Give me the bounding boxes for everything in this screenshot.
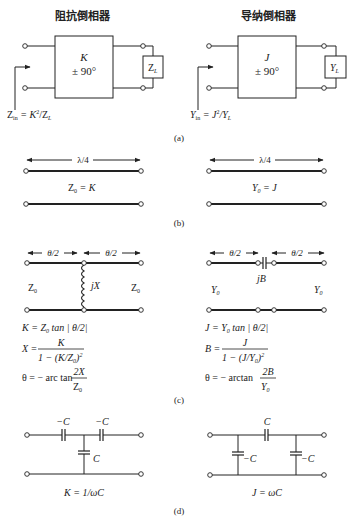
svg-text:θ = − arctan: θ = − arctan	[205, 372, 253, 383]
svg-text:θ = − arc tan: θ = − arc tan	[22, 372, 73, 383]
relation-j: J = ωC	[252, 487, 282, 498]
capacitor-label: C	[93, 453, 100, 464]
panel-c-label: (c)	[174, 395, 184, 405]
svg-text:1 − (K/Z0)2: 1 − (K/Z0)2	[38, 352, 82, 364]
line-length: λ/4	[259, 155, 271, 165]
capacitor-label: −C	[301, 453, 315, 464]
panel-a-label: (a)	[174, 133, 184, 143]
half-length: θ/2	[105, 248, 117, 258]
half-length: θ/2	[229, 248, 241, 258]
line-impedance: Z0 = K	[68, 182, 97, 194]
port-admittance: Y0	[314, 284, 323, 296]
capacitor-pi-j-inverter: C −C −C J = ωC	[208, 416, 327, 498]
capacitor-tee-k-inverter: −C −C C K = 1/ωC	[25, 416, 144, 498]
panel-b-label: (b)	[174, 218, 185, 228]
inverter-param: K	[79, 51, 88, 63]
line-admittance: Y0 = J	[252, 182, 277, 194]
equation-theta: θ = − arc tan 2X Z0	[22, 366, 87, 393]
inductor-icon	[82, 265, 85, 307]
equation-b: B = J 1 − (J/Y0)2	[205, 337, 268, 364]
panel-d-label: (d)	[174, 506, 185, 516]
admittance-inverter-title: 导纳倒相器	[241, 9, 297, 23]
capacitor-label: −C	[56, 416, 70, 427]
impedance-inverter: 阻抗倒相器 K ± 90° ZL Zin = K2/ZL	[7, 9, 163, 121]
quarter-wave-line-admittance: λ/4 Y0 = J	[207, 155, 327, 206]
equation-k: K = Z0 tan | θ/2|	[21, 322, 87, 334]
terminal-node	[141, 44, 146, 49]
svg-text:Y0: Y0	[261, 381, 270, 393]
port-impedance: Z0	[131, 282, 140, 294]
equation-x: X = K 1 − (K/Z0)2	[21, 337, 84, 364]
equation-theta: θ = − arctan 2B Y0	[205, 366, 276, 393]
inverter-phase: ± 90°	[72, 65, 96, 77]
series-capacitor-inverter: θ/2 θ/2 jB Y0 Y0 J = Y0 tan | θ/2| B = J…	[205, 247, 326, 393]
svg-text:B =: B =	[205, 343, 220, 354]
input-admittance-formula: Yin = J2/YL	[190, 109, 232, 121]
input-impedance-formula: Zin = K2/ZL	[7, 109, 52, 121]
impedance-inverter-title: 阻抗倒相器	[55, 9, 111, 23]
shunt-inductor-inverter: θ/2 θ/2 Z0 Z0 jX K = Z0 tan | θ/2| X = K…	[21, 247, 143, 393]
port-admittance: Y0	[211, 284, 220, 296]
terminal-node	[141, 86, 146, 91]
line-length: λ/4	[77, 155, 89, 165]
equation-j: J = Y0 tan | θ/2|	[205, 322, 268, 334]
terminal-node	[23, 86, 28, 91]
svg-text:2X: 2X	[73, 366, 85, 377]
half-length: θ/2	[47, 248, 59, 258]
svg-text:2B: 2B	[262, 366, 273, 377]
inverter-phase: ± 90°	[255, 65, 279, 77]
capacitor-label: −C	[243, 453, 257, 464]
svg-text:X =: X =	[21, 343, 37, 354]
svg-text:K: K	[57, 337, 66, 348]
quarter-wave-line-impedance: λ/4 Z0 = K	[24, 155, 144, 206]
capacitor-label: C	[264, 416, 271, 427]
element-label: jX	[89, 280, 101, 291]
inverter-diagram: 阻抗倒相器 K ± 90° ZL Zin = K2/ZL 导纳倒相器 J ± 9…	[0, 0, 358, 529]
element-label: jB	[255, 273, 266, 284]
capacitor-label: −C	[95, 416, 109, 427]
relation-k: K = 1/ωC	[63, 487, 104, 498]
svg-text:Z0: Z0	[73, 381, 82, 393]
admittance-inverter: 导纳倒相器 J ± 90° YL Yin = J2/YL	[190, 9, 346, 121]
svg-text:1 − (J/Y0)2: 1 − (J/Y0)2	[222, 352, 264, 364]
terminal-node	[23, 44, 28, 49]
port-impedance: Z0	[28, 282, 37, 294]
half-length: θ/2	[291, 248, 303, 258]
svg-text:J: J	[243, 337, 248, 348]
